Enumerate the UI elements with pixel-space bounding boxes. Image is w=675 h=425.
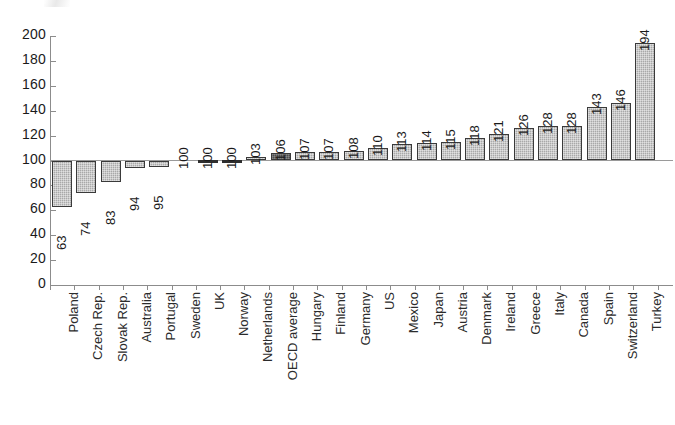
value-label: 100 bbox=[177, 147, 190, 169]
category-label: Germany bbox=[359, 292, 372, 345]
category-label: Spain bbox=[602, 292, 615, 325]
x-axis-tick-mark bbox=[269, 285, 270, 290]
category-label: Greece bbox=[529, 292, 542, 335]
category-label: Slovak Rep. bbox=[116, 292, 129, 362]
y-axis-tick-mark bbox=[50, 61, 56, 62]
value-label: 143 bbox=[590, 93, 603, 115]
category-label: Czech Rep. bbox=[91, 292, 104, 360]
chart-canvas: 200180160140120100806040200 637483949510… bbox=[0, 0, 675, 425]
category-label: Norway bbox=[237, 292, 250, 336]
value-label: 121 bbox=[492, 121, 505, 143]
y-axis-tick-label: 140 bbox=[2, 102, 46, 116]
x-axis-tick-mark bbox=[512, 285, 513, 290]
x-axis-tick-mark bbox=[172, 285, 173, 290]
category-label: OECD average bbox=[286, 292, 299, 380]
y-axis-tick-mark bbox=[50, 86, 56, 87]
x-axis-tick-mark bbox=[585, 285, 586, 290]
y-axis-tick-label: 120 bbox=[2, 127, 46, 141]
y-axis-tick-mark bbox=[50, 136, 56, 137]
value-label: 107 bbox=[298, 138, 311, 160]
x-axis-tick-mark bbox=[366, 285, 367, 290]
y-axis-tick-mark bbox=[50, 111, 56, 112]
value-label: 110 bbox=[371, 135, 384, 156]
value-label: 106 bbox=[274, 139, 287, 161]
bar-poland bbox=[52, 161, 72, 207]
category-label: Poland bbox=[67, 292, 80, 332]
bar-turkey bbox=[635, 43, 655, 160]
value-label: 113 bbox=[395, 132, 408, 153]
value-label: 95 bbox=[152, 195, 165, 209]
category-label: UK bbox=[213, 292, 226, 310]
category-label: US bbox=[383, 292, 396, 310]
x-axis-tick-mark bbox=[390, 285, 391, 290]
x-axis-tick-mark bbox=[487, 285, 488, 290]
category-label: Switzerland bbox=[626, 292, 639, 359]
x-axis-tick-mark bbox=[99, 285, 100, 290]
category-label: Australia bbox=[140, 292, 153, 343]
x-axis-tick-mark bbox=[317, 285, 318, 290]
y-axis-tick-label: 0 bbox=[2, 276, 46, 290]
x-axis-tick-mark bbox=[463, 285, 464, 290]
x-axis-tick-mark bbox=[196, 285, 197, 290]
bar-portugal bbox=[149, 161, 169, 167]
value-label: 74 bbox=[79, 221, 92, 235]
category-label: Hungary bbox=[310, 292, 323, 341]
x-axis-tick-mark bbox=[658, 285, 659, 290]
value-label: 94 bbox=[128, 197, 141, 211]
category-label: Mexico bbox=[407, 292, 420, 333]
category-label: Canada bbox=[577, 292, 590, 338]
category-label: Portugal bbox=[164, 292, 177, 340]
value-label: 194 bbox=[638, 30, 651, 52]
bar-slovak-rep bbox=[101, 161, 121, 182]
value-label: 63 bbox=[55, 235, 68, 249]
value-label: 128 bbox=[541, 112, 554, 134]
y-axis-tick-label: 160 bbox=[2, 77, 46, 91]
x-axis-tick-mark bbox=[50, 285, 51, 290]
bar-australia bbox=[125, 161, 145, 168]
value-label: 146 bbox=[614, 90, 627, 112]
category-label: Austria bbox=[456, 292, 469, 332]
y-axis-tick-mark bbox=[50, 210, 56, 211]
y-axis-tick-label: 20 bbox=[2, 251, 46, 265]
y-axis-tick-label: 80 bbox=[2, 176, 46, 190]
x-axis-tick-mark bbox=[244, 285, 245, 290]
y-axis-tick-mark bbox=[50, 260, 56, 261]
value-label: 100 bbox=[225, 147, 238, 169]
value-label: 126 bbox=[517, 114, 530, 136]
bar-czech-rep bbox=[76, 161, 96, 193]
y-axis-tick-label: 100 bbox=[2, 152, 46, 166]
cropped-title-artifact bbox=[44, 0, 70, 7]
category-label: Denmark bbox=[480, 292, 493, 345]
category-label: Netherlands bbox=[261, 292, 274, 362]
value-label: 115 bbox=[444, 129, 457, 150]
value-label: 103 bbox=[249, 143, 262, 165]
category-label: Sweden bbox=[189, 292, 202, 339]
y-axis-tick-label: 60 bbox=[2, 201, 46, 215]
category-label: Ireland bbox=[504, 292, 517, 332]
category-label: Turkey bbox=[650, 292, 663, 331]
value-label: 83 bbox=[104, 210, 117, 224]
x-axis-tick-mark bbox=[220, 285, 221, 290]
x-axis-tick-mark bbox=[415, 285, 416, 290]
value-label: 114 bbox=[420, 130, 433, 151]
value-label: 107 bbox=[322, 138, 335, 160]
y-axis-tick-mark bbox=[50, 36, 56, 37]
x-axis-tick-mark bbox=[609, 285, 610, 290]
bar-switzerland bbox=[611, 103, 631, 160]
value-label: 118 bbox=[468, 125, 481, 146]
value-label: 108 bbox=[347, 137, 360, 159]
x-axis-tick-mark bbox=[560, 285, 561, 290]
y-axis-tick-label: 200 bbox=[2, 27, 46, 41]
x-axis-tick-mark bbox=[439, 285, 440, 290]
x-axis-tick-mark bbox=[147, 285, 148, 290]
x-axis-tick-mark bbox=[74, 285, 75, 290]
x-axis-tick-mark bbox=[342, 285, 343, 290]
x-axis-tick-mark bbox=[536, 285, 537, 290]
x-axis-tick-mark bbox=[633, 285, 634, 290]
value-label: 128 bbox=[565, 112, 578, 134]
category-label: Italy bbox=[553, 292, 566, 316]
y-axis-tick-label: 180 bbox=[2, 52, 46, 66]
category-label: Japan bbox=[432, 292, 445, 327]
value-label: 100 bbox=[201, 147, 214, 169]
x-axis-tick-mark bbox=[123, 285, 124, 290]
